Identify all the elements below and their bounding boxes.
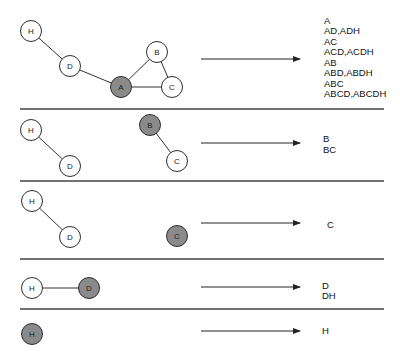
path-results-list: H bbox=[322, 325, 329, 336]
node-label: B bbox=[154, 48, 159, 57]
node-h: H bbox=[21, 120, 42, 141]
path-result: D bbox=[322, 280, 329, 291]
divider-lines bbox=[20, 109, 384, 309]
node-c: C bbox=[162, 77, 183, 98]
node-label: H bbox=[28, 126, 34, 135]
node-label: C bbox=[174, 157, 180, 166]
path-result: AC bbox=[324, 36, 337, 47]
path-results-list: BBC bbox=[323, 133, 336, 155]
node-label: D bbox=[67, 62, 73, 71]
node-label: D bbox=[67, 233, 73, 242]
panel-2: HDBCBBC bbox=[21, 115, 337, 177]
panel-1: HDABCAAD,ADHACACD,ACDHABABD,ABDHABCABCD,… bbox=[21, 15, 387, 100]
node-label: C bbox=[169, 83, 175, 92]
node-c-active: C bbox=[167, 226, 188, 247]
node-label: D bbox=[86, 284, 92, 293]
node-label: A bbox=[118, 83, 124, 92]
node-d: D bbox=[60, 56, 81, 77]
path-result: A bbox=[324, 15, 331, 26]
panel-3: HDCC bbox=[22, 191, 335, 248]
path-results-list: AAD,ADHACACD,ACDHABABD,ABDHABCABCD,ABCDH bbox=[324, 15, 386, 100]
path-result: B bbox=[323, 133, 329, 144]
panels: HDABCAAD,ADHACACD,ACDHABABD,ABDHABCABCD,… bbox=[21, 15, 387, 345]
node-h: H bbox=[22, 191, 43, 212]
node-label: H bbox=[29, 284, 35, 293]
path-result: ABCD,ABCDH bbox=[324, 88, 386, 99]
path-result: DH bbox=[322, 290, 336, 301]
node-b: B bbox=[147, 42, 168, 63]
path-results-list: C bbox=[327, 219, 334, 230]
path-result: AB bbox=[324, 57, 337, 68]
node-b-active: B bbox=[140, 115, 161, 136]
node-h: H bbox=[21, 21, 42, 42]
path-result: H bbox=[322, 325, 329, 336]
path-result: C bbox=[327, 219, 334, 230]
node-label: D bbox=[67, 162, 73, 171]
path-result: ACD,ACDH bbox=[324, 46, 374, 57]
node-label: C bbox=[174, 232, 180, 241]
node-c: C bbox=[167, 151, 188, 172]
path-result: BC bbox=[323, 144, 336, 155]
node-h-active: H bbox=[22, 324, 43, 345]
node-d-active: D bbox=[79, 278, 100, 299]
path-enumeration-diagram: HDABCAAD,ADHACACD,ACDHABABD,ABDHABCABCD,… bbox=[0, 0, 400, 361]
node-label: H bbox=[29, 330, 35, 339]
path-result: AD,ADH bbox=[324, 25, 360, 36]
node-h: H bbox=[22, 278, 43, 299]
node-a-active: A bbox=[111, 77, 132, 98]
panel-5: HH bbox=[22, 324, 330, 345]
node-d: D bbox=[60, 156, 81, 177]
node-label: B bbox=[147, 121, 152, 130]
node-label: H bbox=[29, 197, 35, 206]
path-result: ABC bbox=[324, 78, 344, 89]
path-results-list: DDH bbox=[322, 280, 336, 302]
path-result: ABD,ABDH bbox=[324, 67, 373, 78]
node-d: D bbox=[60, 227, 81, 248]
node-label: H bbox=[28, 27, 34, 36]
panel-4: HDDDH bbox=[22, 278, 336, 302]
